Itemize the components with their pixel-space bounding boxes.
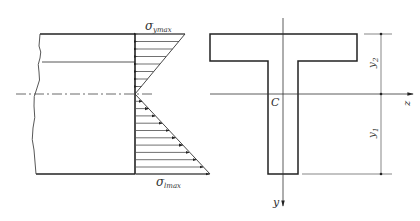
z-axis: z bbox=[210, 94, 413, 107]
svg-text:2: 2 bbox=[372, 57, 380, 63]
dimension-y2-label: y 2 bbox=[366, 57, 380, 69]
svg-text:y: y bbox=[366, 62, 377, 69]
centroid-label: C bbox=[271, 96, 280, 109]
svg-text:y: y bbox=[366, 132, 377, 139]
svg-text:ymax: ymax bbox=[152, 26, 172, 34]
t-section bbox=[210, 34, 357, 174]
sigma-ymax-label: σ ymax bbox=[145, 19, 172, 34]
beam-elevation bbox=[16, 34, 155, 174]
y-axis: y bbox=[272, 18, 283, 209]
tension-stress-block bbox=[135, 94, 210, 174]
dimension-y1-label: y 1 bbox=[366, 128, 380, 139]
dimension-lines bbox=[302, 33, 392, 176]
break-line bbox=[32, 34, 41, 174]
svg-text:y: y bbox=[272, 196, 280, 209]
svg-text:lmax: lmax bbox=[164, 182, 181, 190]
bending-stress-diagram: σ ymax σ lmax y z C y 2 y 1 bbox=[0, 0, 420, 221]
compression-stress-block bbox=[135, 34, 185, 94]
svg-text:z: z bbox=[401, 100, 412, 107]
sigma-lmax-label: σ lmax bbox=[156, 175, 181, 190]
svg-text:1: 1 bbox=[372, 128, 380, 132]
